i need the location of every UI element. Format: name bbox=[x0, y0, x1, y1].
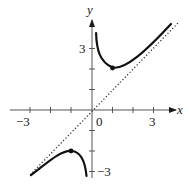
local-min-point bbox=[110, 66, 115, 71]
x-tick-label-neg3: −3 bbox=[16, 114, 30, 129]
local-max-point bbox=[69, 149, 74, 154]
curve-lower-branch bbox=[31, 151, 87, 176]
asymptote-line bbox=[30, 23, 178, 175]
x-axis-label: x bbox=[176, 102, 183, 117]
curve-upper-branch bbox=[96, 24, 171, 68]
y-axis-label: y bbox=[85, 2, 93, 17]
function-graph: y x −3 0 3 3 −3 bbox=[0, 0, 189, 189]
x-tick-label-zero: 0 bbox=[96, 114, 103, 129]
x-tick-label-3: 3 bbox=[149, 114, 156, 129]
y-tick-label-3: 3 bbox=[79, 41, 86, 56]
y-tick-label-neg3: −3 bbox=[97, 164, 111, 179]
